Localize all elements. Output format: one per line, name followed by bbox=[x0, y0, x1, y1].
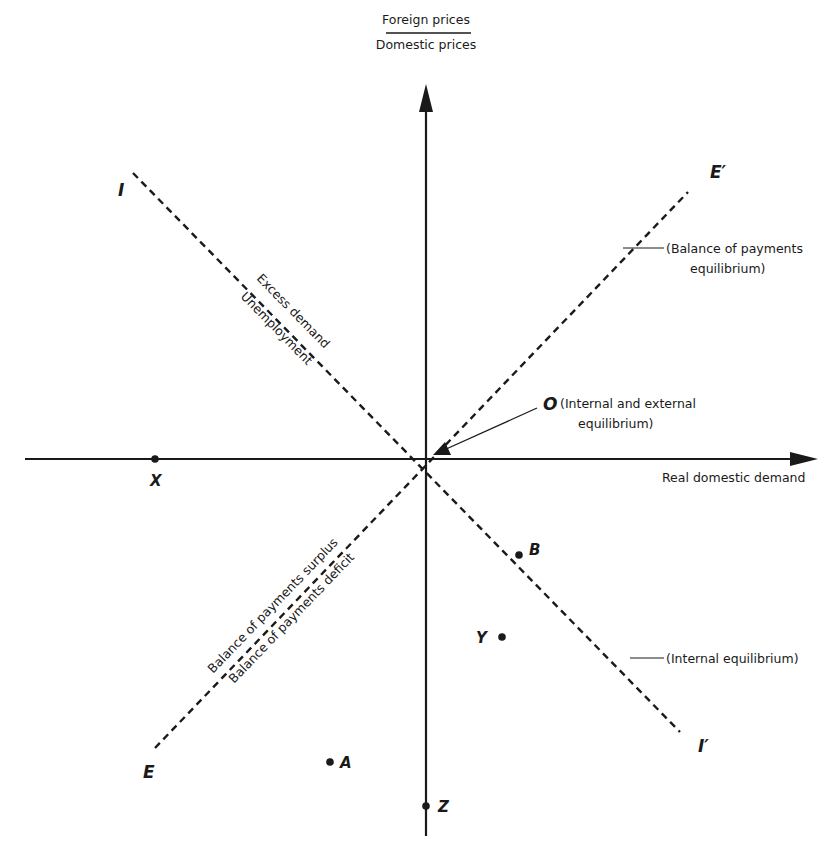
label-I-prime: I′ bbox=[698, 736, 709, 756]
point-Y: Y bbox=[476, 629, 506, 647]
label-E-prime: E′ bbox=[710, 162, 727, 182]
origin-leader-line bbox=[444, 408, 537, 450]
label-A: A bbox=[339, 754, 352, 772]
point-A: A bbox=[326, 754, 351, 772]
label-B: B bbox=[529, 541, 540, 559]
bop-deficit-label: Balance of payments deficit bbox=[225, 549, 357, 686]
point-B: B bbox=[515, 541, 540, 559]
y-axis-numerator: Foreign prices bbox=[382, 12, 470, 27]
label-E: E bbox=[143, 762, 155, 782]
label-I: I bbox=[118, 180, 124, 200]
internal-equilibrium-annotation: (Internal equilibrium) bbox=[666, 651, 799, 666]
origin-annotation-line1: (Internal and external bbox=[560, 396, 696, 411]
origin-annotation-line2: equilibrium) bbox=[578, 416, 654, 431]
label-O: O bbox=[543, 394, 557, 414]
x-axis-arrow-icon bbox=[790, 452, 818, 466]
label-Z: Z bbox=[437, 798, 450, 816]
label-X: X bbox=[149, 472, 163, 490]
y-axis-label: Foreign prices Domestic prices bbox=[376, 12, 477, 52]
point-X: X bbox=[149, 455, 163, 490]
origin: O (Internal and external equilibrium) bbox=[433, 394, 696, 455]
y-axis-denominator: Domestic prices bbox=[376, 37, 477, 52]
bop-annotation-line2: equilibrium) bbox=[690, 261, 766, 276]
bop-annotation-line1: (Balance of payments bbox=[666, 241, 803, 256]
bop-surplus-label: Balance of payments surplus bbox=[204, 535, 340, 676]
x-axis-label: Real domestic demand bbox=[662, 470, 805, 485]
y-axis-arrow-icon bbox=[419, 84, 433, 112]
label-Y: Y bbox=[476, 629, 489, 647]
swan-diagram: Foreign prices Domestic prices Real dome… bbox=[0, 0, 839, 850]
